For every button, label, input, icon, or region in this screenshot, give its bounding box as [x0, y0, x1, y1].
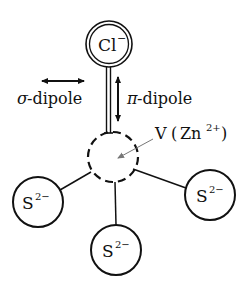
s-ion-bottom: S 2− [91, 225, 141, 275]
bond-right [133, 169, 186, 188]
svg-text:2−: 2− [115, 239, 130, 250]
vacancy-site [88, 132, 138, 182]
s-ion-right: S 2− [185, 170, 235, 220]
svg-text:2+: 2+ [206, 122, 221, 133]
svg-text:Zn: Zn [180, 124, 201, 143]
s-ion-left: S 2− [13, 177, 63, 227]
sigma-dipole-label: σ -dipole [17, 89, 82, 108]
center-label: V ( Zn 2+ ) [154, 122, 227, 143]
bond-bottom [115, 182, 116, 225]
svg-text:(: ( [171, 124, 177, 143]
cl-charge: − [117, 32, 126, 45]
cl-label: Cl [98, 35, 116, 55]
bond-left [60, 172, 91, 190]
svg-text:-dipole: -dipole [27, 89, 82, 108]
svg-text:2−: 2− [35, 191, 50, 202]
svg-text:S: S [196, 186, 208, 206]
svg-text:V: V [154, 124, 167, 143]
bond-double-cl [104, 67, 113, 133]
coordination-diagram: Cl − V ( Zn 2+ ) σ -dipole π -dipole S 2… [0, 0, 243, 290]
svg-text:2−: 2− [209, 184, 224, 195]
svg-text:): ) [221, 124, 227, 143]
svg-text:S: S [22, 193, 34, 213]
svg-text:S: S [102, 241, 114, 261]
pointer-arrow [118, 139, 153, 158]
pi-dipole-label: π -dipole [126, 89, 192, 108]
cl-ion: Cl − [86, 21, 132, 67]
svg-text:-dipole: -dipole [137, 89, 192, 108]
